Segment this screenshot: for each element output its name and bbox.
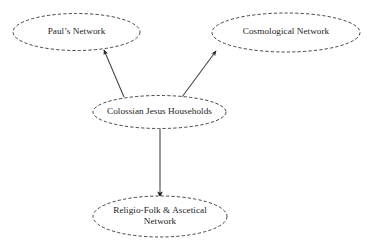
edge-households-to-pauls [104, 50, 124, 97]
node-ellipse-cosmological-network[interactable] [212, 13, 360, 52]
diagram-graphics [0, 0, 371, 250]
edge-households-to-cosmological [182, 51, 216, 97]
node-ellipse-religio-folk-ascetical-network[interactable] [93, 196, 227, 237]
node-shape-group [13, 13, 360, 237]
diagram-canvas: Paul’s Network Cosmological Network Colo… [0, 0, 371, 250]
node-ellipse-colossian-jesus-households[interactable] [93, 96, 226, 129]
node-ellipse-pauls-network[interactable] [13, 14, 140, 51]
